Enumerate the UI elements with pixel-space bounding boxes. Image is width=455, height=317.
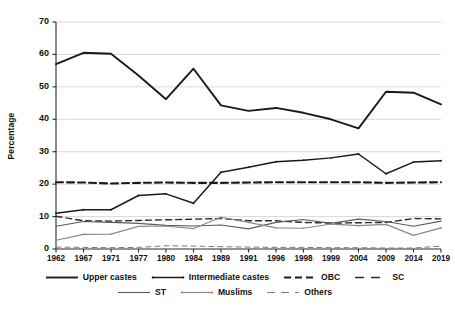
y-tick-label: 60 [27,48,49,58]
x-tick-label: 2014 [400,254,428,263]
x-tick-label: 1967 [70,254,98,263]
legend-label: Others [304,287,332,297]
x-tick-label: 1971 [97,254,125,263]
axis-lines [53,22,442,253]
legend-key-icon [117,288,151,297]
x-tick-label: 1984 [180,254,208,263]
series-others [56,246,441,248]
y-tick-label: 70 [27,16,49,26]
legend-key-icon [180,288,214,297]
legend-key-icon [151,273,185,282]
legend-line-sample [354,273,388,282]
legend-line-sample [117,288,151,297]
legend-label: Intermediate castes [189,272,269,282]
legend-item-upper-castes[interactable]: Upper castes [45,272,137,282]
x-tick-label: 1999 [317,254,345,263]
legend-item-obc[interactable]: OBC [283,272,340,282]
x-tick-label: 2019 [427,254,455,263]
series-obc [56,182,441,183]
y-tick-label: 40 [27,113,49,123]
y-tick-label: 20 [27,178,49,188]
legend-item-others[interactable]: Others [266,287,332,297]
legend-key-icon [45,273,79,282]
legend-row-primary: Upper castesIntermediate castesOBCSC [0,272,449,282]
legend-line-sample [266,288,300,297]
legend-item-intermediate-castes[interactable]: Intermediate castes [151,272,269,282]
y-tick-label: 50 [27,81,49,91]
legend-label: ST [155,287,166,297]
y-tick-label: 10 [27,211,49,221]
legend-line-sample [283,273,317,282]
x-tick-label: 1989 [207,254,235,263]
legend-item-sc[interactable]: SC [354,272,404,282]
x-tick-label: 1996 [262,254,290,263]
legend-key-icon [354,273,388,282]
legend-label: Muslims [218,287,252,297]
legend-label: Upper castes [83,272,137,282]
x-tick-label: 1998 [290,254,318,263]
legend-key-icon [266,288,300,297]
y-tick-label: 30 [27,146,49,156]
gridlines [56,22,441,217]
x-tick-label: 1977 [125,254,153,263]
x-tick-label: 1980 [152,254,180,263]
legend-label: OBC [321,272,340,282]
x-tick-label: 2009 [372,254,400,263]
series-upper-castes [56,53,441,129]
x-tick-label: 1962 [42,254,70,263]
legend-key-icon [283,273,317,282]
y-axis-title: Percentage [6,106,16,166]
legend-item-st[interactable]: ST [117,287,166,297]
legend-item-muslims[interactable]: Muslims [180,287,252,297]
legend-line-sample [45,273,79,282]
legend-label: SC [392,272,404,282]
legend-row-secondary: STMuslimsOthers [0,287,449,297]
legend-line-sample [180,288,214,297]
x-tick-label: 1991 [235,254,263,263]
x-tick-label: 2004 [345,254,373,263]
y-tick-label: 0 [27,243,49,253]
legend-line-sample [151,273,185,282]
